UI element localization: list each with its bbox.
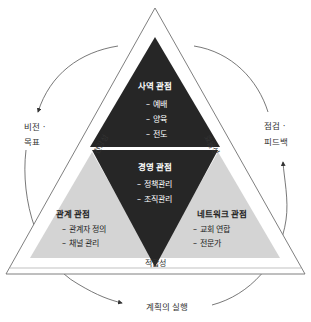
right-section-title: 네트워크 관점 <box>197 209 248 219</box>
cycle-label-left-1: 비전 · <box>24 122 45 132</box>
middle-section-title: 경영 관점 <box>138 162 173 172</box>
cycle-label-left-2: 목표 <box>24 137 40 147</box>
top-item-1: – 양육 <box>146 115 167 124</box>
strategy-triangle-diagram: 건강성 효율성 적합성 사역 관점 – 예배 – 양육 – 전도 경영 관점 –… <box>0 0 311 322</box>
top-section-title: 사역 관점 <box>138 81 173 91</box>
middle-item-0: – 정책관리 <box>137 179 172 189</box>
middle-item-1: – 조직관리 <box>137 194 172 204</box>
cycle-label-right-1: 점검 · <box>264 121 285 131</box>
middle-section: 경영 관점 – 정책관리 – 조직관리 <box>137 162 172 204</box>
left-section-title: 관계 관점 <box>56 209 91 219</box>
right-item-0: – 교회 연합 <box>193 225 231 234</box>
left-item-1: – 채널 관리 <box>62 238 99 248</box>
top-item-2: – 전도 <box>146 129 167 139</box>
top-item-0: – 예배 <box>146 99 167 109</box>
left-item-0: – 관계자 정의 <box>62 224 106 234</box>
edge-label-bottom: 적합성 <box>145 258 166 268</box>
right-item-1: – 전문가 <box>193 238 222 248</box>
cycle-label-right-2: 피드백 <box>264 137 288 147</box>
cycle-label-bottom: 계획의 실행 <box>146 302 189 312</box>
